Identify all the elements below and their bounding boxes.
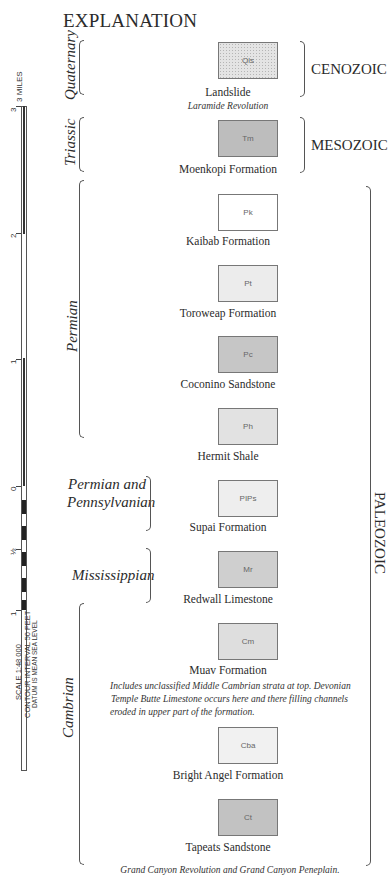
unit-symbol: PIPs xyxy=(240,494,257,503)
scale-bar-fill xyxy=(23,358,25,486)
scale-segment xyxy=(22,500,26,514)
unit-symbol: Pt xyxy=(244,279,252,288)
swatch-ct: Ct xyxy=(218,799,278,836)
era-cenozoic: CENOZOIC xyxy=(311,61,387,78)
unit-symbol: Ph xyxy=(243,422,253,431)
swatch-qls: Qls xyxy=(218,42,278,79)
brace-triassic xyxy=(79,117,84,172)
unit-redwall: Redwall Limestone xyxy=(120,593,336,605)
unit-hermit: Hermit Shale xyxy=(120,450,336,462)
period-permian-and: Permian and xyxy=(68,476,146,493)
swatch-ph: Ph xyxy=(218,408,278,445)
period-quaternary: Quaternary xyxy=(62,30,79,100)
note-muav-line: Includes unclassified Middle Cambrian st… xyxy=(110,680,360,693)
era-mesozoic: MESOZOIC xyxy=(311,137,388,154)
brace-quaternary xyxy=(79,40,84,95)
scale-tick-label: 1 xyxy=(9,612,18,616)
unit-landslide: Landslide xyxy=(120,86,336,98)
scale-segment xyxy=(22,526,26,540)
unit-toroweap: Toroweap Formation xyxy=(120,307,336,319)
scale-tick-label: 1 xyxy=(9,360,18,364)
scale-ratio: SCALE 1:48 000 xyxy=(14,644,23,700)
swatch-tm: Tm xyxy=(218,120,278,157)
legend-title: EXPLANATION xyxy=(63,10,197,32)
unit-moenkopi: Moenkopi Formation xyxy=(120,163,336,175)
period-mississippian: Mississippian xyxy=(72,567,155,584)
unit-symbol: Pk xyxy=(243,208,252,217)
scale-tick-label: ½ xyxy=(9,548,18,555)
scale-bar-fill xyxy=(23,106,25,234)
unit-muav: Muav Formation xyxy=(120,664,336,676)
brace-permian xyxy=(79,180,84,438)
swatch-pips: PIPs xyxy=(218,480,278,517)
unit-symbol: Tm xyxy=(242,134,254,143)
swatch-pt: Pt xyxy=(218,265,278,302)
unit-symbol: Qls xyxy=(242,56,254,65)
scale-tick-label: 2 xyxy=(9,234,18,238)
scale-segment xyxy=(22,578,26,592)
swatch-cm: Cm xyxy=(218,623,278,660)
unit-symbol: Cm xyxy=(242,637,254,646)
note-laramide: Laramide Revolution xyxy=(120,100,336,113)
scale-tick-label: 3 xyxy=(9,108,18,112)
unit-tapeats: Tapeats Sandstone xyxy=(120,841,336,853)
period-pennsylvanian: Pennsylvanian xyxy=(67,494,155,511)
scale-segment xyxy=(22,600,26,610)
note-grand-canyon: Grand Canyon Revolution and Grand Canyon… xyxy=(100,864,360,877)
unit-coconino: Coconino Sandstone xyxy=(120,378,336,390)
swatch-pc: Pc xyxy=(218,336,278,373)
unit-symbol: Mr xyxy=(243,565,252,574)
note-muav-line: eroded in upper part of the formation. xyxy=(110,706,360,719)
scale-tick-label: 0 xyxy=(9,487,18,491)
unit-symbol: Cba xyxy=(241,741,256,750)
datum-note: DATUM IS MEAN SEA LEVEL xyxy=(31,620,38,708)
scale-segment xyxy=(22,552,26,566)
unit-bright-angel: Bright Angel Formation xyxy=(120,769,336,781)
brace-cambrian xyxy=(79,603,84,865)
era-paleozoic: PALEOZOIC xyxy=(371,492,388,574)
period-cambrian: Cambrian xyxy=(60,677,77,738)
note-muav: Includes unclassified Middle Cambrian st… xyxy=(110,680,360,719)
swatch-pk: Pk xyxy=(218,194,278,231)
unit-symbol: Ct xyxy=(244,813,252,822)
unit-kaibab: Kaibab Formation xyxy=(120,235,336,247)
note-muav-line: Temple Butte Limestone occurs here and t… xyxy=(110,693,360,706)
scale-units-label: 3 MILES xyxy=(15,71,24,102)
period-triassic: Triassic xyxy=(62,118,79,166)
swatch-mr: Mr xyxy=(218,551,278,588)
unit-supai: Supai Formation xyxy=(120,521,336,533)
unit-symbol: Pc xyxy=(243,350,252,359)
swatch-cba: Cba xyxy=(218,727,278,764)
